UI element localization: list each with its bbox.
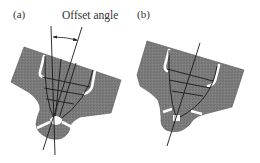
arrowhead-left-icon [53, 36, 57, 39]
panel-b-diagram [137, 41, 244, 146]
offset-angle-label: Offset angle [62, 9, 118, 21]
weld-joint-figure: (a) (b) Offset angle [0, 0, 260, 163]
panel-b-label: (b) [137, 8, 150, 20]
panel-b-workpiece [137, 41, 244, 132]
panel-a-diagram [11, 26, 121, 155]
arrowhead-right-icon [73, 38, 78, 41]
panel-a-label: (a) [13, 8, 25, 20]
diagram-canvas [0, 0, 260, 163]
